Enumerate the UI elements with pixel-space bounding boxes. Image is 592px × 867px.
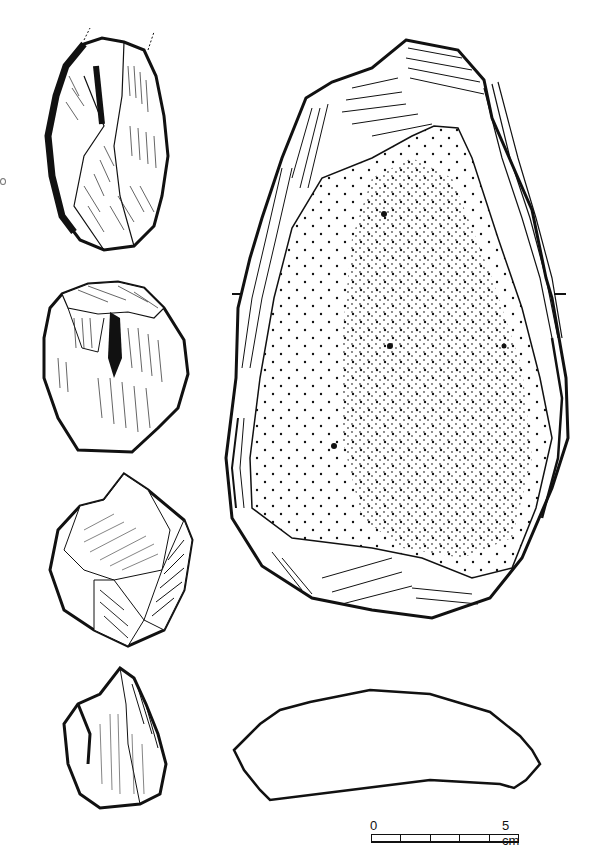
flake-1-drawing bbox=[44, 36, 174, 256]
scale-segment bbox=[431, 835, 460, 841]
artifact-flake-1 bbox=[44, 36, 174, 256]
scale-start-label: 0 bbox=[370, 818, 377, 833]
section-marker-left bbox=[232, 293, 241, 295]
artifact-core-3 bbox=[44, 470, 194, 650]
scale-ruler bbox=[371, 834, 519, 843]
core-3-drawing bbox=[44, 470, 194, 650]
artifact-large-tool bbox=[222, 38, 582, 638]
scale-segment bbox=[401, 835, 430, 841]
scale-end-label: 5 cm bbox=[502, 818, 524, 848]
flake-4-drawing bbox=[60, 664, 170, 814]
artifact-cross-section bbox=[230, 680, 560, 805]
artifact-flake-4 bbox=[60, 664, 170, 814]
cross-section-drawing bbox=[230, 680, 560, 805]
scale-segment bbox=[460, 835, 489, 841]
section-marker-right bbox=[554, 293, 566, 295]
large-tool-drawing bbox=[222, 38, 582, 638]
scale-segment bbox=[372, 835, 401, 841]
scale-bar: 0 5 cm bbox=[368, 818, 524, 858]
core-2-drawing bbox=[38, 278, 193, 458]
scale-segment bbox=[490, 835, 518, 841]
artifact-core-2 bbox=[38, 278, 193, 458]
ring-mark bbox=[0, 178, 6, 185]
